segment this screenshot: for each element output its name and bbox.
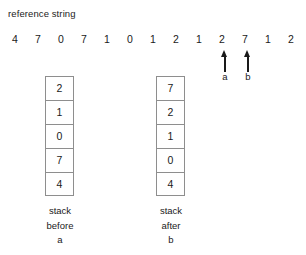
caption-line: stack bbox=[10, 204, 110, 219]
reference-string-value: 4 bbox=[8, 31, 22, 47]
stack-before-a: 2 1 0 7 4 bbox=[45, 76, 74, 196]
up-arrow-icon bbox=[219, 50, 231, 72]
caption-line: b bbox=[121, 233, 221, 248]
reference-string-value: 1 bbox=[192, 31, 206, 47]
stack-cell: 1 bbox=[45, 100, 74, 124]
reference-string-row: 4 7 0 7 1 0 1 2 1 2 7 1 2 bbox=[8, 31, 298, 47]
stack-cell: 7 bbox=[156, 76, 185, 100]
stack-after-b-caption: stack after b bbox=[121, 204, 221, 248]
stack-cell: 2 bbox=[45, 76, 74, 100]
lru-stack-figure: reference string 4 7 0 7 1 0 1 2 1 2 7 1… bbox=[0, 0, 306, 255]
reference-string-value: 1 bbox=[100, 31, 114, 47]
reference-string-value: 7 bbox=[77, 31, 91, 47]
reference-string-value: 2 bbox=[169, 31, 183, 47]
arrow-shaft bbox=[247, 55, 249, 72]
reference-string-value: 1 bbox=[261, 31, 275, 47]
caption-line: a bbox=[10, 233, 110, 248]
stack-cell: 2 bbox=[156, 100, 185, 124]
marker-label-b: b bbox=[241, 71, 255, 83]
reference-string-value: 7 bbox=[31, 31, 45, 47]
reference-string-value: 1 bbox=[146, 31, 160, 47]
stack-before-a-caption: stack before a bbox=[10, 204, 110, 248]
stack-cell: 4 bbox=[45, 172, 74, 196]
caption-line: after bbox=[121, 219, 221, 234]
reference-string-value: 0 bbox=[123, 31, 137, 47]
stack-after-b: 7 2 1 0 4 bbox=[156, 76, 185, 196]
stack-cell: 1 bbox=[156, 124, 185, 148]
stack-cell: 7 bbox=[45, 148, 74, 172]
arrow-shaft bbox=[224, 55, 226, 72]
stack-cell: 0 bbox=[156, 148, 185, 172]
reference-string-value: 0 bbox=[54, 31, 68, 47]
caption-line: before bbox=[10, 219, 110, 234]
marker-label-a: a bbox=[218, 71, 232, 83]
reference-string-value: 2 bbox=[215, 31, 229, 47]
up-arrow-icon bbox=[242, 50, 254, 72]
reference-string-title: reference string bbox=[8, 8, 76, 19]
reference-string-value: 2 bbox=[284, 31, 298, 47]
stack-cell: 0 bbox=[45, 124, 74, 148]
stack-cell: 4 bbox=[156, 172, 185, 196]
reference-string-value: 7 bbox=[238, 31, 252, 47]
caption-line: stack bbox=[121, 204, 221, 219]
